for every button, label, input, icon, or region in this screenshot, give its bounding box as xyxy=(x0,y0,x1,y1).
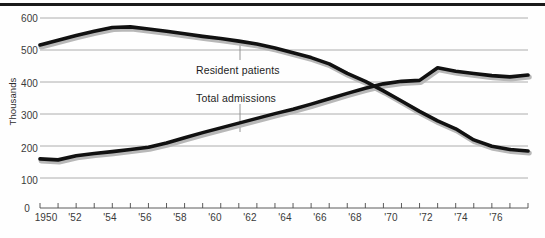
x-tick-label-1974: '74 xyxy=(446,212,476,223)
x-tick-label-1954: '54 xyxy=(95,212,125,223)
x-tick-label-1956: '56 xyxy=(130,212,160,223)
series-shadows xyxy=(41,29,529,162)
x-tick-label-1960: '60 xyxy=(200,212,230,223)
x-tick-label-1966: '66 xyxy=(305,212,335,223)
chart-container: Thousands 600 500 400 300 200 100 0 Resi… xyxy=(0,0,545,238)
series-lines xyxy=(40,27,528,160)
x-tick-label-1950: 1950 xyxy=(28,212,64,223)
x-tick-label-1962: '62 xyxy=(235,212,265,223)
x-tick-label-1958: '58 xyxy=(165,212,195,223)
x-tick-label-1970: '70 xyxy=(376,212,406,223)
x-tick-label-1968: '68 xyxy=(340,212,370,223)
x-axis-ticks xyxy=(40,203,528,208)
x-tick-label-1952: '52 xyxy=(60,212,90,223)
x-tick-label-1976: '76 xyxy=(481,212,511,223)
plot-area xyxy=(0,0,545,238)
x-tick-label-1972: '72 xyxy=(411,212,441,223)
x-tick-label-1964: '64 xyxy=(270,212,300,223)
